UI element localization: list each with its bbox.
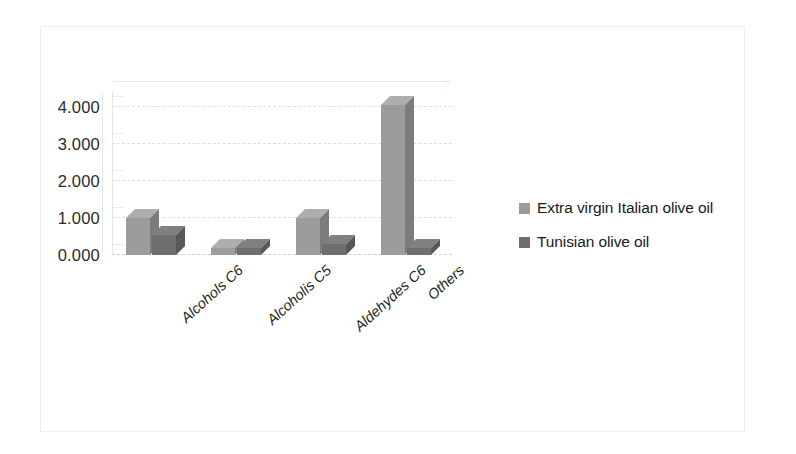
y-axis-tick-label: 2.000 xyxy=(36,173,100,190)
bar-front-face xyxy=(381,105,405,255)
legend-swatch-icon xyxy=(519,203,530,214)
bar-1-2 xyxy=(211,248,235,255)
bar-front-face xyxy=(407,248,431,255)
x-axis-label-2: Alcoholis C5 xyxy=(264,262,335,328)
y-axis-tick-label: 4.000 xyxy=(36,99,100,116)
legend-item-2[interactable]: Tunisian olive oil xyxy=(519,233,769,251)
bar-front-face xyxy=(152,235,176,255)
bar-2-4 xyxy=(407,248,431,255)
plot-area xyxy=(112,92,452,255)
legend-item-1[interactable]: Extra virgin Italian olive oil xyxy=(519,199,769,217)
bar-1-4 xyxy=(381,105,405,255)
chart-legend: Extra virgin Italian olive oilTunisian o… xyxy=(519,199,769,267)
chart-top-edge xyxy=(102,81,452,92)
bar-front-face xyxy=(296,218,320,255)
bar-1-1 xyxy=(126,218,150,255)
x-axis-label-4: Others xyxy=(424,262,467,303)
y-axis-tick-label: 3.000 xyxy=(36,136,100,153)
y-axis: 0.0001.0002.0003.0004.000 xyxy=(36,0,100,454)
bar-side-face xyxy=(405,96,414,255)
bar-2-1 xyxy=(152,235,176,255)
legend-swatch-icon xyxy=(519,237,530,248)
x-axis-category-labels: Alcohols C6Alcoholis C5Aldehydes C6Other… xyxy=(112,262,452,372)
bar-2-3 xyxy=(322,244,346,255)
bar-1-3 xyxy=(296,218,320,255)
x-axis-label-3: Aldehydes C6 xyxy=(351,262,429,334)
bar-front-face xyxy=(322,244,346,255)
bar-2-2 xyxy=(237,248,261,255)
bar-chart: 0.0001.0002.0003.0004.000 Alcohols C6Alc… xyxy=(0,0,796,454)
legend-label: Tunisian olive oil xyxy=(537,233,649,251)
bar-front-face xyxy=(237,248,261,255)
bar-front-face xyxy=(211,248,235,255)
y-axis-tick-label: 0.000 xyxy=(36,247,100,264)
bar-front-face xyxy=(126,218,150,255)
x-axis-label-1: Alcohols C6 xyxy=(178,262,246,326)
legend-label: Extra virgin Italian olive oil xyxy=(537,199,713,217)
y-axis-tick-label: 1.000 xyxy=(36,210,100,227)
